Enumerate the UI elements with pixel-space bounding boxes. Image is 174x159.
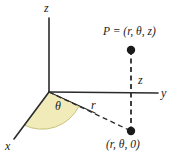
point-projection-marker [127,127,135,135]
theta-label: θ [55,100,61,112]
radius-label: r [91,99,96,111]
y-axis-label: y [161,87,166,99]
y-axis-line [49,92,158,93]
projection-point-label: (r, θ, 0) [106,139,140,151]
theta-angle-wedge [24,92,79,129]
point-p-marker [127,46,135,54]
x-axis-label: x [5,140,10,152]
height-segment-label: z [138,74,143,86]
cylindrical-coordinates-figure: θ z y x r z P = (r, θ, z) (r, θ, 0) [0,0,174,159]
z-axis-label: z [44,2,49,14]
diagram-canvas [0,0,174,159]
point-p-label: P = (r, θ, z) [103,26,156,38]
